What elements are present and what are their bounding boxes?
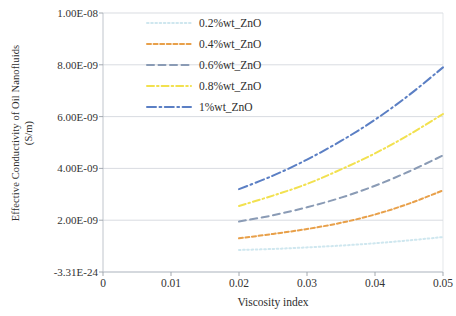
- legend-item[interactable]: 0.4%wt_ZnO: [146, 33, 296, 54]
- series-line: [239, 114, 443, 206]
- chart-legend: 0.2%wt_ZnO0.4%wt_ZnO0.6%wt_ZnO0.8%wt_ZnO…: [146, 12, 296, 117]
- legend-label: 0.2%wt_ZnO: [192, 17, 261, 29]
- legend-label: 1%wt_ZnO: [192, 101, 253, 113]
- legend-line-swatch-icon: [146, 38, 192, 50]
- series-line: [239, 237, 443, 250]
- x-tick-label: 0: [73, 277, 133, 289]
- x-tick-label: 0.01: [141, 277, 201, 289]
- legend-item[interactable]: 0.6%wt_ZnO: [146, 54, 296, 75]
- legend-label: 0.6%wt_ZnO: [192, 59, 261, 71]
- x-axis-tick-labels: 00.010.020.030.040.05: [0, 277, 456, 297]
- y-axis-title: Effective Conductivity of Oil Nanofluids…: [9, 3, 35, 263]
- legend-label: 0.8%wt_ZnO: [192, 80, 261, 92]
- legend-item[interactable]: 0.2%wt_ZnO: [146, 12, 296, 33]
- legend-line-swatch-icon: [146, 101, 192, 113]
- legend-item[interactable]: 1%wt_ZnO: [146, 96, 296, 117]
- legend-item[interactable]: 0.8%wt_ZnO: [146, 75, 296, 96]
- legend-label: 0.4%wt_ZnO: [192, 38, 261, 50]
- legend-line-swatch-icon: [146, 59, 192, 71]
- chart-figure: 1.00E-088.00E-096.00E-094.00E-092.00E-09…: [0, 0, 456, 316]
- series-line: [239, 155, 443, 221]
- legend-line-swatch-icon: [146, 17, 192, 29]
- x-axis-title: Viscosity index: [103, 296, 443, 308]
- x-tick-label: 0.05: [413, 277, 456, 289]
- x-tick-label: 0.02: [209, 277, 269, 289]
- legend-line-swatch-icon: [146, 80, 192, 92]
- x-tick-label: 0.04: [345, 277, 405, 289]
- x-tick-label: 0.03: [277, 277, 337, 289]
